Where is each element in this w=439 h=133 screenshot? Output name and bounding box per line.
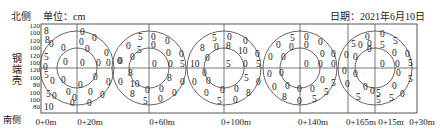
reading-value: 8 bbox=[130, 89, 135, 99]
reading-value: 10 bbox=[190, 59, 200, 69]
reading-value: 0 bbox=[344, 50, 349, 60]
reading-value: 0 bbox=[179, 49, 184, 59]
reading-value: 0 bbox=[126, 41, 131, 51]
reading-value: 0 bbox=[166, 48, 171, 58]
reading-value: 0 bbox=[392, 48, 397, 58]
reading-value: 0 bbox=[256, 77, 261, 87]
reading-value: 0 bbox=[234, 84, 239, 94]
reading-value: 0 bbox=[353, 69, 358, 79]
reading-value: 0 bbox=[272, 82, 277, 92]
tunnel-profile-diagram: 8850551000000000000000000000000500050000… bbox=[0, 0, 439, 133]
reading-value: 0 bbox=[276, 40, 281, 50]
reading-value: 0 bbox=[61, 75, 66, 85]
reading-value: 0 bbox=[370, 86, 375, 96]
reading-value: 0 bbox=[80, 27, 85, 37]
reading-value: 0 bbox=[205, 53, 210, 63]
reading-value: 0 bbox=[363, 82, 368, 92]
x-label: 0+20m bbox=[77, 117, 103, 127]
reading-value: 0 bbox=[297, 84, 302, 94]
reading-value: 0 bbox=[214, 42, 219, 52]
reading-value: 0 bbox=[92, 33, 97, 43]
reading-value: 0 bbox=[358, 40, 363, 50]
reading-value: 0 bbox=[118, 56, 123, 66]
reading-value: 5 bbox=[256, 59, 261, 69]
reading-value: 0 bbox=[289, 42, 294, 52]
reading-value: 0 bbox=[80, 58, 85, 68]
reading-value: 5 bbox=[324, 87, 329, 97]
reading-value: 8 bbox=[282, 92, 287, 102]
reading-value: 0 bbox=[96, 58, 101, 68]
reading-value: 0 bbox=[88, 87, 93, 97]
reading-value: 0 bbox=[172, 88, 177, 98]
reading-value: 5 bbox=[137, 45, 142, 55]
x-label: 0+15m bbox=[378, 117, 404, 127]
reading-value: 0 bbox=[158, 94, 163, 104]
reading-value: 0 bbox=[63, 57, 68, 67]
reading-value: 0 bbox=[85, 44, 90, 54]
reading-value: 8 bbox=[167, 73, 172, 83]
reading-value: 0 bbox=[331, 59, 336, 69]
reading-value: 0 bbox=[345, 79, 350, 89]
reading-value: 0 bbox=[192, 77, 197, 87]
reading-value: 0 bbox=[396, 68, 401, 78]
reading-value: 0 bbox=[320, 75, 325, 85]
reading-value: 0 bbox=[165, 36, 170, 46]
reading-value: 0 bbox=[285, 81, 290, 91]
reading-value: 8 bbox=[128, 68, 133, 78]
reading-value: 0 bbox=[279, 68, 284, 78]
reading-value: 0 bbox=[243, 59, 248, 69]
reading-value: 0 bbox=[320, 49, 325, 59]
reading-value: 8 bbox=[246, 88, 251, 98]
reading-value: 0 bbox=[52, 91, 57, 101]
south-label: 南侧 bbox=[3, 113, 21, 126]
reading-value: 0 bbox=[130, 52, 135, 62]
reading-value: 0 bbox=[100, 90, 105, 100]
reading-value: 5 bbox=[393, 36, 398, 46]
reading-value: 0 bbox=[152, 59, 157, 69]
reading-value: 5 bbox=[180, 59, 185, 69]
reading-value: 0 bbox=[318, 37, 323, 47]
x-label: 0+0m bbox=[35, 117, 56, 127]
reading-value: 0 bbox=[204, 88, 209, 98]
reading-value: 8 bbox=[226, 41, 231, 51]
reading-value: 0 bbox=[145, 85, 150, 95]
reading-value: 5 bbox=[331, 78, 336, 88]
reading-value: 0 bbox=[118, 77, 123, 87]
reading-value: 0 bbox=[168, 59, 173, 69]
reading-value: 0 bbox=[78, 80, 83, 90]
reading-value: 10 bbox=[238, 46, 248, 56]
x-label: 0+30m bbox=[409, 117, 435, 127]
reading-value: 5 bbox=[380, 40, 385, 50]
x-label: 0+100m bbox=[221, 117, 251, 127]
reading-value: 0 bbox=[206, 76, 211, 86]
reading-value: 0 bbox=[400, 89, 405, 99]
reading-value: 5 bbox=[143, 96, 148, 106]
reading-value: 0 bbox=[353, 52, 358, 62]
reading-value: 0 bbox=[367, 39, 372, 49]
reading-value: 0 bbox=[331, 49, 336, 59]
x-label: 0+140m bbox=[298, 117, 328, 127]
edge-reading: 5 bbox=[44, 70, 49, 80]
x-label: 0+165m bbox=[346, 117, 376, 127]
reading-value: 0 bbox=[318, 59, 323, 69]
reading-value: 5 bbox=[226, 59, 231, 69]
reading-value: 0 bbox=[93, 72, 98, 82]
reading-value: 0 bbox=[268, 52, 273, 62]
reading-value: 0 bbox=[79, 37, 84, 47]
reading-value: 0 bbox=[233, 95, 238, 105]
reading-value: 0 bbox=[267, 69, 272, 79]
reading-value: 5 bbox=[138, 32, 143, 42]
reading-value: 5 bbox=[217, 96, 222, 106]
reading-value: 0 bbox=[281, 52, 286, 62]
reading-value: 5 bbox=[356, 92, 361, 102]
edge-reading: 5 bbox=[44, 52, 49, 62]
reading-value: 8 bbox=[200, 43, 205, 53]
reading-value: 0 bbox=[255, 49, 260, 59]
reading-value: 0 bbox=[61, 43, 66, 53]
reading-value: 0 bbox=[70, 98, 75, 108]
x-label: 0+60m bbox=[149, 117, 175, 127]
reading-value: 10 bbox=[130, 79, 140, 89]
reading-value: 0 bbox=[220, 85, 225, 95]
reading-value: 0 bbox=[104, 48, 109, 58]
reading-value: 0 bbox=[342, 66, 347, 76]
